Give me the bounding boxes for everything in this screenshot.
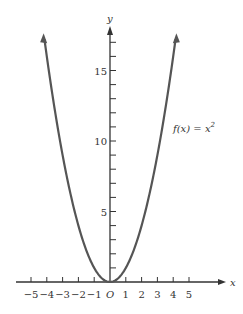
x-tick-label: 1 bbox=[123, 289, 129, 300]
x-tick-label: −3 bbox=[55, 289, 70, 300]
x-tick-label: −2 bbox=[71, 289, 86, 300]
curve-arrow-left-icon bbox=[40, 33, 47, 43]
x-tick-label: 4 bbox=[170, 289, 176, 300]
y-tick-label: 15 bbox=[94, 66, 107, 77]
y-axis-arrow-icon bbox=[107, 26, 113, 35]
curve-arrow-right-icon bbox=[173, 33, 180, 43]
x-tick-label: −5 bbox=[24, 289, 39, 300]
origin-label: O bbox=[106, 289, 114, 300]
y-tick-label: 10 bbox=[94, 136, 107, 147]
x-tick-label: −1 bbox=[87, 289, 102, 300]
function-label: f(x) = x2 bbox=[172, 121, 216, 134]
x-tick-label: −4 bbox=[39, 289, 54, 300]
x-tick-label: 2 bbox=[138, 289, 144, 300]
y-axis-label: y bbox=[106, 13, 113, 24]
x-tick-label: 3 bbox=[154, 289, 160, 300]
parabola-chart: xy−5−4−3−2−112345O51015f(x) = x2 bbox=[0, 0, 243, 314]
x-axis-arrow-icon bbox=[218, 279, 226, 285]
y-tick-label: 5 bbox=[101, 207, 107, 218]
x-axis-label: x bbox=[230, 277, 236, 288]
x-tick-label: 5 bbox=[186, 289, 192, 300]
